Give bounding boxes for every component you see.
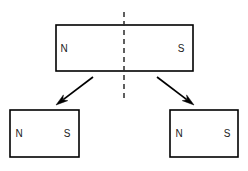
left-magnet: N S [10, 110, 79, 157]
right-magnet-north-label: N [175, 128, 182, 139]
magnet-splitting-diagram: N S N S N S [0, 0, 248, 171]
left-magnet-north-label: N [15, 128, 22, 139]
arrow-to-right-magnet-shaft [157, 77, 187, 100]
original-magnet-north-label: N [60, 43, 67, 54]
arrow-to-left-magnet-shaft [63, 77, 93, 100]
diagram-canvas: N S N S N S [0, 0, 248, 171]
left-magnet-south-label: S [64, 128, 71, 139]
right-magnet-south-label: S [224, 128, 231, 139]
arrow-to-right-magnet [157, 77, 194, 105]
right-magnet: N S [170, 110, 238, 157]
arrow-to-left-magnet [56, 77, 93, 105]
original-magnet-south-label: S [178, 43, 185, 54]
